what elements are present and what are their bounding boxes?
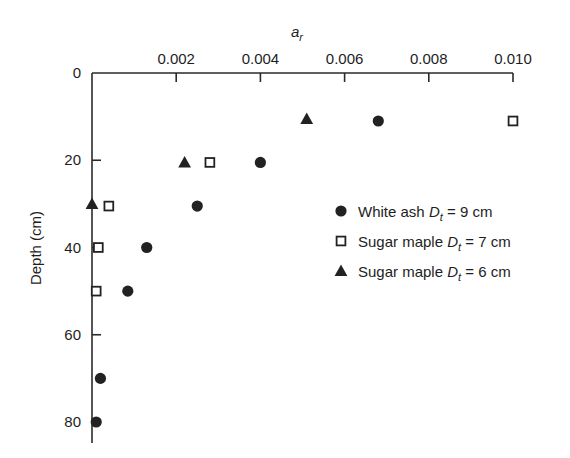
circle-legend-icon [335, 205, 346, 216]
y-tick-label: 40 [64, 239, 81, 256]
x-tick-label: 0.006 [326, 50, 364, 67]
legend-label: Sugar maple Dt = 7 cm [358, 233, 511, 253]
y-tick-label: 60 [64, 326, 81, 343]
square-data-point [92, 287, 101, 296]
circle-data-point [95, 373, 106, 384]
x-tick-label: 0.010 [494, 50, 532, 67]
triangle-data-point [178, 156, 191, 168]
square-data-point [94, 243, 103, 252]
square-legend-icon [337, 237, 346, 246]
legend-label: Sugar maple Dt = 6 cm [358, 263, 511, 283]
circle-data-point [91, 416, 102, 427]
square-data-point [205, 158, 214, 167]
triangle-data-point [86, 197, 99, 209]
y-axis-title: Depth (cm) [27, 211, 44, 285]
circle-data-point [373, 115, 384, 126]
y-tick-label: 80 [64, 413, 81, 430]
legend-item: White ash Dt = 9 cm [335, 203, 492, 223]
legend: White ash Dt = 9 cmSugar maple Dt = 7 cm… [335, 203, 511, 283]
legend-label: White ash Dt = 9 cm [358, 203, 492, 223]
legend-item: Sugar maple Dt = 7 cm [337, 233, 511, 253]
triangle-data-point [300, 112, 313, 124]
circle-data-point [192, 200, 203, 211]
x-tick-label: 0.008 [410, 50, 448, 67]
circle-data-point [141, 242, 152, 253]
y-tick-label: 20 [64, 151, 81, 168]
square-data-point [104, 202, 113, 211]
series-filled-triangle [86, 112, 314, 209]
circle-data-point [122, 286, 133, 297]
circle-data-point [255, 157, 266, 168]
square-data-point [509, 117, 518, 126]
legend-item: Sugar maple Dt = 6 cm [335, 263, 511, 283]
x-tick-label: 0.004 [242, 50, 280, 67]
scatter-chart: 0.0020.0040.0060.0080.010020406080arDept… [0, 0, 570, 458]
x-tick-label: 0.002 [157, 50, 195, 67]
triangle-legend-icon [335, 265, 348, 277]
y-tick-label: 0 [73, 64, 81, 81]
x-axis-title: ar [291, 23, 304, 43]
